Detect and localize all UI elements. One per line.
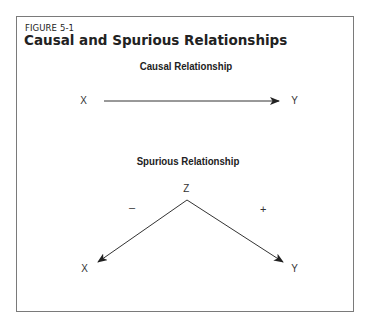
z-to-x-arrow-icon xyxy=(98,200,187,262)
arrows-layer xyxy=(0,0,372,331)
z-to-y-arrow-icon xyxy=(187,200,283,262)
